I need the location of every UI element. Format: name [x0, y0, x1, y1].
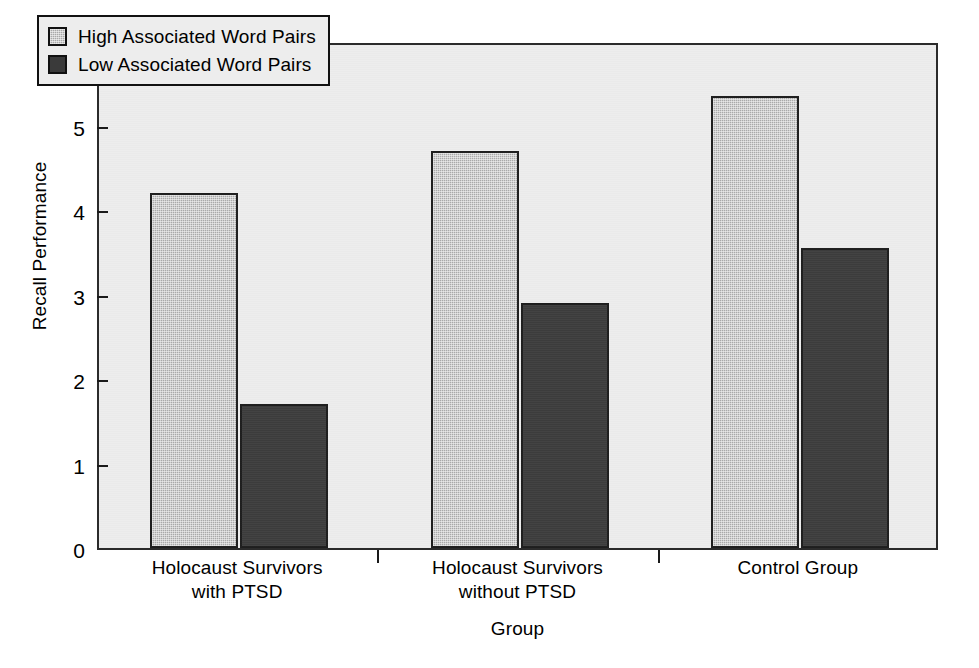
plot-area [97, 43, 938, 550]
y-axis-tickmark [97, 127, 108, 129]
bar-high-group-1 [150, 193, 238, 548]
x-axis-group-separator [658, 550, 660, 563]
chart-legend: High Associated Word Pairs Low Associate… [37, 15, 330, 86]
y-axis-tickmark [97, 380, 108, 382]
x-axis-category-3: Control Group [628, 556, 968, 580]
bar-high-group-3 [711, 96, 799, 548]
y-axis-title: Recall Performance [29, 146, 51, 346]
bar-chart-figure: Recall Performance 0123456 High Associat… [0, 0, 979, 668]
legend-label-low: Low Associated Word Pairs [78, 55, 311, 74]
y-axis-tick-1: 1 [55, 455, 85, 476]
y-axis-tickmark [97, 465, 108, 467]
legend-item-high: High Associated Word Pairs [48, 22, 316, 50]
bar-low-group-2 [521, 303, 609, 548]
y-axis-tickmark [97, 211, 108, 213]
y-axis-tick-5: 5 [55, 117, 85, 138]
y-axis-tick-2: 2 [55, 371, 85, 392]
legend-swatch-low-icon [48, 55, 67, 74]
legend-swatch-high-icon [48, 27, 67, 46]
x-axis-group-separator [377, 550, 379, 563]
x-axis-title: Group [97, 618, 938, 640]
y-axis-tick-4: 4 [55, 202, 85, 223]
y-axis-tick-3: 3 [55, 286, 85, 307]
bar-high-group-2 [431, 151, 519, 548]
bar-low-group-3 [801, 248, 889, 548]
bar-low-group-1 [240, 404, 328, 548]
y-axis-tickmark [97, 296, 108, 298]
legend-item-low: Low Associated Word Pairs [48, 50, 316, 78]
legend-label-high: High Associated Word Pairs [78, 27, 316, 46]
